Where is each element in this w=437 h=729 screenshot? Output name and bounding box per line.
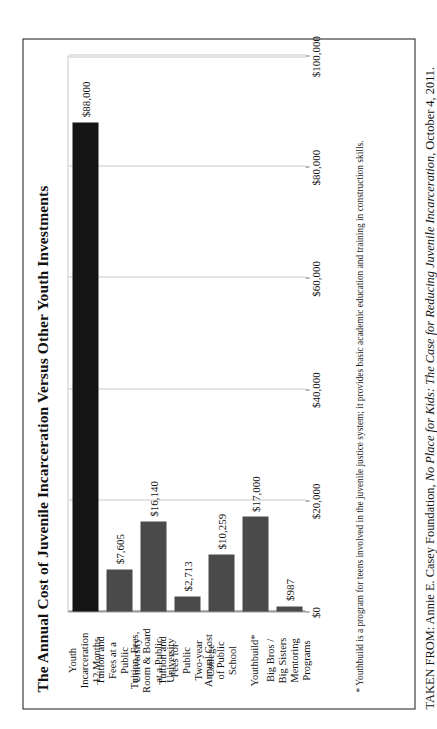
source-suffix: , October 4, 2011.	[422, 66, 436, 155]
bar	[72, 122, 98, 611]
bar	[106, 569, 132, 611]
bar-value-label: $10,259	[215, 513, 227, 549]
category-label-line: Public	[180, 616, 192, 704]
rotated-page-stage: The Annual Cost of Juvenile Incarceratio…	[0, 0, 437, 729]
source-prefix: TAKEN FROM: Annie E. Casey Foundation,	[422, 481, 436, 709]
tick-label: $40,000	[309, 372, 321, 408]
bar-row: $987	[276, 55, 302, 611]
category-label-line: University	[164, 616, 176, 704]
bar-row: $2,713	[174, 55, 200, 611]
bar-row: $16,140	[140, 55, 166, 611]
category-label-line: Youthbuild*	[248, 616, 260, 704]
bar	[208, 554, 234, 611]
category-label-line: at a Public	[152, 616, 164, 704]
category-label-line: Big Sisters	[276, 616, 288, 704]
bar	[276, 606, 302, 611]
bar	[174, 596, 200, 611]
category-label-line: Youth	[66, 616, 78, 704]
bar-value-label: $17,000	[249, 476, 261, 512]
category-label: Annual Costof PublicSchool	[202, 616, 238, 704]
category-label-line: Tuition and	[156, 616, 168, 704]
category-label: Tuition, Fees,Room & Boardat a PublicUni…	[128, 616, 176, 704]
category-label-line: Annual Cost	[202, 616, 214, 704]
source-work-title: No Place for Kids: The Case for Reducing…	[422, 155, 436, 480]
category-label-line: School	[226, 616, 238, 704]
chart-frame: The Annual Cost of Juvenile Incarceratio…	[22, 38, 415, 709]
bar-value-label: $987	[283, 579, 295, 601]
source-citation: TAKEN FROM: Annie E. Casey Foundation, N…	[422, 9, 437, 709]
chart-title: The Annual Cost of Juvenile Incarceratio…	[33, 185, 51, 692]
category-label-line: Two-year	[192, 616, 204, 704]
category-label-line: Incarceration	[78, 616, 90, 704]
bar-value-label: $88,000	[79, 81, 91, 117]
category-label-line: Fees for	[168, 616, 180, 704]
category-label: Youthbuild*	[248, 616, 260, 704]
bar	[140, 521, 166, 611]
category-label: YouthIncarceration12 Months	[66, 616, 102, 704]
category-label-line: College	[204, 616, 216, 704]
category-label: Tuition andFees at aPublicUniversity	[94, 616, 142, 704]
tick-label: $20,000	[309, 483, 321, 519]
footnote: * Youthbuild is a program for teens invo…	[353, 52, 365, 692]
bar-value-label: $2,713	[181, 561, 193, 591]
bar-row: $17,000	[242, 55, 268, 611]
bar	[242, 516, 268, 611]
category-label-line: Programs	[300, 616, 312, 704]
tick-mark	[305, 500, 309, 501]
bar-row: $10,259	[208, 55, 234, 611]
category-label: Tuition andFees forPublicTwo-yearCollege	[156, 616, 216, 704]
tick-label: $100,000	[309, 35, 321, 76]
bar-value-label: $7,605	[113, 533, 125, 563]
bar-row: $7,605	[106, 55, 132, 611]
plot-wrapper: $88,000$7,605$16,140$2,713$10,259$17,000…	[67, 56, 305, 612]
tick-mark	[305, 389, 309, 390]
tick-mark	[305, 277, 309, 278]
category-label-line: Big Bros /	[264, 616, 276, 704]
category-label-line: Public	[118, 616, 130, 704]
plot-area: $88,000$7,605$16,140$2,713$10,259$17,000…	[67, 56, 305, 612]
category-label-line: University	[130, 616, 142, 704]
category-label-line: Tuition and	[94, 616, 106, 704]
category-label-line: of Public	[214, 616, 226, 704]
category-label: Big Bros /Big SistersMentoringPrograms	[264, 616, 312, 704]
category-label-line: 12 Months	[90, 616, 102, 704]
tick-label: $0	[309, 607, 321, 618]
category-label-line: Room & Board	[140, 616, 152, 704]
category-label-line: Tuition, Fees,	[128, 616, 140, 704]
bar-value-label: $16,140	[147, 481, 159, 517]
tick-mark	[305, 166, 309, 167]
bar-row: $88,000	[72, 55, 98, 611]
category-label-line: Mentoring	[288, 616, 300, 704]
tick-mark	[305, 611, 309, 612]
tick-label: $80,000	[309, 149, 321, 185]
category-label-line: Fees at a	[106, 616, 118, 704]
tick-label: $60,000	[309, 261, 321, 297]
tick-mark	[305, 55, 309, 56]
